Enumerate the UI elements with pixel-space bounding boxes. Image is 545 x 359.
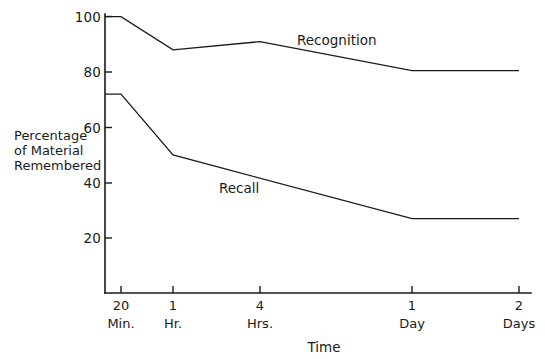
y-tick-label-20: 20 bbox=[83, 230, 101, 246]
x-tick-unit-2: Hrs. bbox=[247, 316, 273, 331]
y-tick-label-80: 80 bbox=[83, 64, 101, 80]
y-tick-label-100: 100 bbox=[75, 9, 101, 25]
y-axis-title-line-2: of Material bbox=[14, 143, 83, 158]
series-line-recall bbox=[105, 94, 519, 219]
y-axis-ticks bbox=[105, 17, 112, 239]
series-label-recognition: Recognition bbox=[297, 32, 377, 48]
y-axis-title-line-3: Remembered bbox=[14, 158, 101, 173]
x-tick-number-3: 1 bbox=[408, 298, 416, 313]
x-tick-unit-1: Hr. bbox=[164, 316, 182, 331]
x-axis-title: Time bbox=[306, 339, 340, 355]
y-axis-title-line-1: Percentage bbox=[14, 128, 87, 143]
x-tick-unit-4: Days bbox=[503, 316, 536, 331]
x-tick-number-1: 1 bbox=[169, 298, 177, 313]
chart-canvas: 100 80 60 40 20 20 1 4 1 2 Min. Hr. Hrs.… bbox=[0, 0, 545, 359]
x-tick-number-0: 20 bbox=[113, 298, 130, 313]
x-tick-number-2: 4 bbox=[256, 298, 264, 313]
x-axis-ticks bbox=[121, 286, 519, 293]
memory-retention-chart: 100 80 60 40 20 20 1 4 1 2 Min. Hr. Hrs.… bbox=[0, 0, 545, 359]
series-label-recall: Recall bbox=[219, 180, 259, 196]
x-tick-unit-3: Day bbox=[399, 316, 425, 331]
y-tick-label-40: 40 bbox=[83, 175, 101, 191]
x-tick-number-4: 2 bbox=[515, 298, 523, 313]
x-tick-unit-0: Min. bbox=[107, 316, 134, 331]
